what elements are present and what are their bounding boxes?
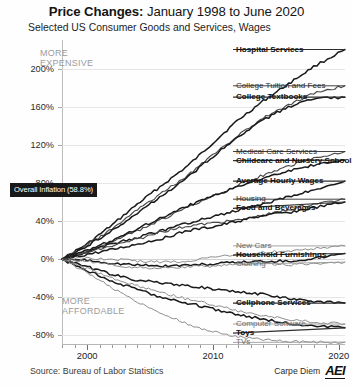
series-label-average-hourly-wages: Average Hourly Wages [236, 177, 324, 185]
x-axis-label: 2010 [202, 350, 223, 361]
x-tick-2015 [276, 345, 277, 348]
brand-block: Carpe Diem AEI [274, 364, 345, 379]
series-label-tvs: TVs [236, 338, 250, 346]
series-label-household-furnishings: Household Furnishings [236, 251, 326, 259]
x-tick-2009 [200, 345, 201, 348]
series-label-food-and-beverages: Food and Beverages [236, 204, 316, 212]
series-line [62, 86, 345, 259]
series-label-toys: Toys [236, 329, 254, 337]
series-label-childcare-and-nursery-school: Childcare and Nursery School [236, 157, 352, 165]
series-label-new-cars: New Cars [236, 242, 272, 250]
series-label-computer-software: Computer Software [236, 320, 306, 328]
aei-logo: AEI [325, 364, 345, 379]
x-axis-label: 2020 [328, 350, 349, 361]
series-label-college-tuition-and-fees: College Tuition and Fees [236, 82, 326, 90]
annotation-more-expensive: MORE EXPENSIVE [40, 48, 93, 68]
page-title: Price Changes: January 1998 to June 2020 [0, 4, 353, 19]
series-label-cellphone-services: Cellphone Services [236, 299, 311, 307]
x-tick-2019 [326, 345, 327, 348]
y-axis-label: 0% [0, 254, 54, 264]
series-label-clothing: Clothing [236, 260, 266, 268]
title-emphasis: Price Changes: [49, 4, 144, 19]
series-label-college-textbooks: College Textbooks [236, 93, 307, 101]
overall-inflation-badge: Overall Inflation (58.8%) [10, 183, 97, 197]
x-tick-2001 [100, 345, 101, 348]
y-axis-label: -40% [0, 292, 54, 302]
x-tick-2011 [226, 345, 227, 348]
x-tick-2002 [112, 345, 113, 348]
annotation-more-affordable: MORE AFFORDABLE [62, 296, 125, 316]
chart-subtitle: Selected US Consumer Goods and Services,… [28, 22, 271, 33]
chart-title-block: Price Changes: January 1998 to June 2020 [0, 4, 353, 19]
y-axis-label: 120% [0, 140, 54, 150]
x-tick-2005 [150, 345, 151, 348]
series-label-medical-care-services: Medical Care Services [236, 148, 317, 156]
x-tick-2017 [301, 345, 302, 348]
x-tick-2016 [288, 345, 289, 348]
series-label-hospital-services: Hospital Services [236, 46, 303, 54]
source-note: Source: Bureau of Labor Statistics [30, 366, 164, 376]
x-tick-1999 [75, 345, 76, 348]
x-tick-2018 [314, 345, 315, 348]
title-daterange: January 1998 to June 2020 [143, 4, 304, 19]
x-tick-2007 [175, 345, 176, 348]
x-tick-1998 [62, 345, 63, 348]
x-tick-2003 [125, 345, 126, 348]
x-tick-2013 [251, 345, 252, 348]
series-line [62, 259, 345, 328]
series-label-housing: Housing [236, 195, 266, 203]
y-axis-label: 160% [0, 102, 54, 112]
y-axis-label: 40% [0, 216, 54, 226]
x-tick-2004 [137, 345, 138, 348]
y-axis-label: -80% [0, 330, 54, 340]
x-tick-2008 [188, 345, 189, 348]
x-tick-2014 [263, 345, 264, 348]
x-axis-label: 2000 [77, 350, 98, 361]
price-changes-chart: Price Changes: January 1998 to June 2020… [0, 0, 353, 389]
brand-name: Carpe Diem [274, 366, 320, 376]
x-tick-2006 [163, 345, 164, 348]
